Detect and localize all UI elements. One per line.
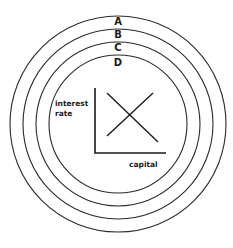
ring-label-c: C xyxy=(114,42,121,53)
graph-axes xyxy=(95,88,166,153)
x-axis-label: capital xyxy=(129,160,158,169)
nested-circles-diagram: A B C D interest rate capital xyxy=(0,0,233,248)
ring-label-a: A xyxy=(114,16,122,27)
y-axis-label-line2: rate xyxy=(55,109,72,118)
supply-demand-graph xyxy=(95,88,166,153)
ring-label-b: B xyxy=(114,29,122,40)
y-axis-label-line1: interest xyxy=(55,99,89,108)
demand-curve xyxy=(107,93,158,142)
ring-label-d: D xyxy=(114,57,122,68)
ring-d xyxy=(49,55,187,193)
